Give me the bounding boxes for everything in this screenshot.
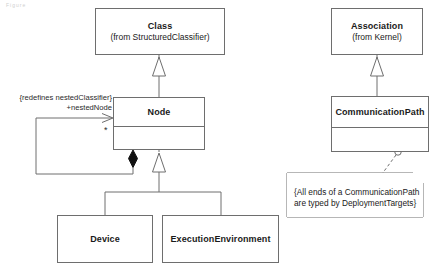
class-box-device[interactable]: Device [57, 215, 153, 263]
redefines-constraint-label: {redefines nestedClassifier} [0, 93, 112, 103]
generalization-node-to-class [153, 55, 166, 97]
note-body: {All ends of a CommunicationPath are typ… [294, 187, 419, 209]
nestednode-role-text: +nestedNode [67, 103, 112, 112]
executionenvironment-title: ExecutionEnvironment [170, 234, 270, 245]
class-box-association[interactable]: Association (from Kernel) [331, 8, 423, 55]
figure-corner-mark: Figure [6, 2, 26, 8]
class-package: (from StructuredClassifier) [110, 32, 209, 43]
communicationpath-name-compartment: CommunicationPath [332, 97, 428, 127]
nestednode-multiplicity-text: * [104, 125, 108, 135]
uml-diagram-canvas: Figure [0, 0, 435, 267]
communicationpath-attributes-compartment [332, 127, 428, 151]
node-name-compartment: Node [114, 98, 204, 126]
redefines-constraint-text: {redefines nestedClassifier} [20, 93, 112, 102]
generalization-tree-to-node [105, 150, 221, 215]
class-box-executionenvironment[interactable]: ExecutionEnvironment [162, 215, 279, 263]
note-line-2: are typed by DeploymentTargets} [294, 198, 419, 209]
generalization-commpath-to-association [371, 55, 384, 96]
communicationpath-title: CommunicationPath [335, 107, 424, 118]
class-box-class[interactable]: Class (from StructuredClassifier) [95, 8, 225, 55]
executionenvironment-name-compartment: ExecutionEnvironment [163, 216, 278, 262]
node-attributes-compartment [114, 126, 204, 149]
class-name-compartment: Class (from StructuredClassifier) [96, 9, 224, 54]
association-package: (from Kernel) [352, 32, 402, 43]
note-line-1: {All ends of a CommunicationPath [294, 187, 419, 198]
nestednode-multiplicity-label: * [104, 126, 108, 135]
note-communicationpath-constraint[interactable]: {All ends of a CommunicationPath are typ… [287, 173, 423, 217]
association-name-compartment: Association (from Kernel) [332, 9, 422, 54]
note-anchor-line [382, 149, 401, 174]
association-title: Association [351, 21, 403, 32]
device-name-compartment: Device [58, 216, 152, 262]
device-title: Device [90, 234, 120, 245]
class-box-node[interactable]: Node [113, 97, 205, 150]
class-title: Class [148, 21, 173, 32]
class-box-communicationpath[interactable]: CommunicationPath [331, 96, 429, 152]
node-title: Node [148, 107, 171, 118]
nestednode-role-label: +nestedNode [0, 103, 112, 113]
